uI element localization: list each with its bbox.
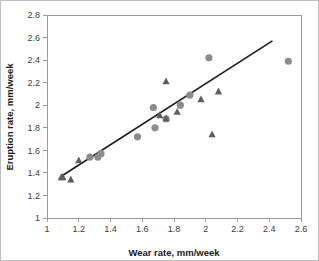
data-point-triangle [162,77,169,84]
data-point-circle [205,54,212,61]
x-axis-ticks [47,218,301,222]
y-tick-label: 2.4 [27,55,40,65]
y-tick-label: 2.6 [27,33,40,43]
x-tick-label: 1.8 [168,224,181,234]
data-point-triangle [174,108,181,115]
y-axis-title: Eruption rate, mm/week [4,63,15,171]
data-point-triangle [67,176,74,183]
y-tick-label: 2 [35,100,40,110]
data-points [58,54,292,182]
y-tick-label: 1.4 [27,168,40,178]
x-tick-label: 1.2 [72,224,85,234]
x-tick-label: 2.6 [295,224,308,234]
data-point-triangle [75,156,82,163]
y-tick-label: 1.6 [27,146,40,156]
y-axis-tick-labels: 11.21.41.61.822.22.42.62.8 [27,10,40,223]
x-axis-title: Wear rate, mm/week [128,247,220,258]
chart-figure: 11.21.41.61.822.22.42.6 11.21.41.61.822.… [0,0,319,261]
x-tick-label: 1 [44,224,49,234]
data-point-circle [151,124,158,131]
y-tick-label: 1 [35,213,40,223]
scatter-plot: 11.21.41.61.822.22.42.6 11.21.41.61.822.… [1,1,319,261]
plot-frame [47,15,301,218]
data-point-circle [186,91,193,98]
data-point-triangle [197,95,204,102]
x-axis-tick-labels: 11.21.41.61.822.22.42.6 [44,224,307,234]
data-point-circle [150,104,157,111]
x-tick-label: 2.2 [231,224,244,234]
y-tick-label: 1.2 [27,191,40,201]
data-point-circle [86,154,93,161]
data-point-triangle [209,130,216,137]
data-point-circle [285,58,292,65]
data-point-circle [134,133,141,140]
x-tick-label: 1.4 [104,224,117,234]
y-axis-ticks [43,15,47,218]
data-point-circle [177,102,184,109]
x-tick-label: 1.6 [136,224,149,234]
x-tick-label: 2 [203,224,208,234]
y-tick-label: 2.8 [27,10,40,20]
data-point-circle [97,150,104,157]
data-point-triangle [215,88,222,95]
y-tick-label: 1.8 [27,123,40,133]
x-tick-label: 2.4 [263,224,276,234]
y-tick-label: 2.2 [27,78,40,88]
